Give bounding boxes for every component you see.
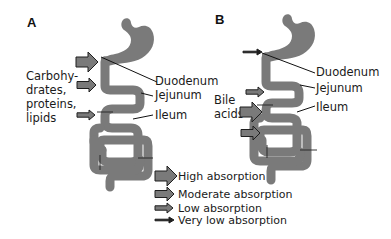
label-duodenum-b: Duodenum: [316, 65, 379, 79]
label-jejunum-a: Jejunum: [154, 88, 202, 102]
moderate-absorption-arrow-icon: [77, 78, 96, 92]
nutrient-label-line-3: proteins,: [26, 97, 77, 111]
absorption-diagram: A Duodenum Jejunum Ileum Carbohy- drates…: [0, 0, 391, 239]
legend-moderate-arrow-icon: [155, 187, 174, 201]
panel-b: B Duodenum Jejunum Ileum Bile acids: [214, 12, 379, 180]
low-absorption-arrow-icon: [246, 87, 264, 97]
nutrient-label-line-4: lipids: [26, 111, 56, 125]
legend-low-arrow-icon: [155, 203, 173, 213]
label-ileum-a: Ileum: [155, 108, 187, 122]
legend-very-low-label: Very low absorption: [178, 214, 287, 227]
legend-high-label: High absorption: [178, 170, 266, 183]
panel-b-label: B: [215, 12, 224, 27]
ileum-leader-line: [297, 106, 315, 112]
nutrient-label-line-2: drates,: [26, 83, 66, 97]
stomach-icon: [104, 18, 154, 65]
nutrient-label-line-1: Carbohy-: [26, 69, 78, 83]
label-duodenum-a: Duodenum: [155, 74, 218, 88]
stomach-icon: [265, 14, 315, 61]
label-ileum-b: Ileum: [316, 100, 348, 114]
legend-moderate-label: Moderate absorption: [178, 188, 293, 201]
low-absorption-arrow-icon: [77, 110, 95, 120]
very-low-absorption-arrow-icon: [243, 49, 262, 55]
legend-high-arrow-icon: [155, 166, 177, 186]
bile-acids-label-line-2: acids: [214, 107, 244, 121]
ileum-leader-line: [133, 115, 153, 119]
bile-acids-label-line-1: Bile: [214, 93, 235, 107]
panel-a-label: A: [27, 15, 37, 30]
label-jejunum-b: Jejunum: [315, 81, 363, 95]
legend-very-low-arrow-icon: [155, 217, 174, 223]
high-absorption-arrow-icon: [76, 52, 98, 72]
panel-a: A Duodenum Jejunum Ileum Carbohy- drates…: [26, 15, 218, 187]
